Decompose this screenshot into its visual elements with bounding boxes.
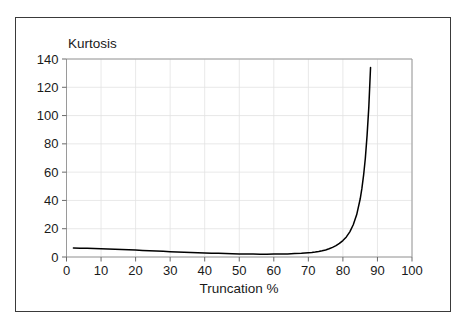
x-tick-label: 10: [94, 263, 108, 278]
x-tick-label: 60: [267, 263, 281, 278]
y-tick-label: 60: [44, 165, 58, 180]
x-tick-label: 30: [163, 263, 177, 278]
y-tick-label: 120: [37, 80, 59, 95]
y-tick-label: 80: [44, 136, 58, 151]
y-tick-label: 40: [44, 193, 58, 208]
y-tick-label: 100: [37, 108, 59, 123]
x-tick-label: 90: [370, 263, 384, 278]
x-tick-label: 0: [63, 263, 70, 278]
x-tick-label: 20: [128, 263, 142, 278]
y-tick-label: 20: [44, 221, 58, 236]
x-axis-title: Truncation %: [199, 281, 278, 296]
figure-container: 0102030405060708090100 02040608010012014…: [0, 0, 469, 327]
kurtosis-line-chart: 0102030405060708090100 02040608010012014…: [0, 0, 469, 327]
x-tick-label: 50: [232, 263, 246, 278]
x-tick-label: 40: [197, 263, 211, 278]
x-tick-label: 70: [301, 263, 315, 278]
data-series-curve: [73, 67, 370, 254]
y-tick-label: 0: [51, 250, 58, 265]
y-tick-label: 140: [37, 52, 59, 67]
y-tick-labels: 020406080100120140: [37, 52, 59, 265]
y-axis-title: Kurtosis: [68, 36, 117, 51]
x-tick-labels: 0102030405060708090100: [63, 263, 423, 278]
x-tick-label: 80: [336, 263, 350, 278]
series-line: [73, 67, 370, 254]
x-tick-label: 100: [401, 263, 423, 278]
axis-ticks: [62, 59, 412, 262]
grid-lines: [67, 59, 413, 257]
